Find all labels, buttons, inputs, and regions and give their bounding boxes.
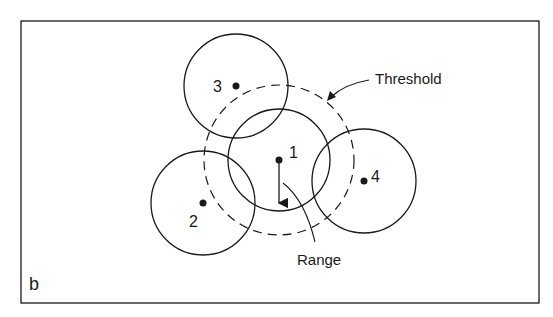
node-3-label: 3 [213, 78, 222, 95]
node-1-dot [276, 157, 283, 164]
node-3-dot [233, 83, 240, 90]
node-4-dot [361, 178, 368, 185]
threshold-arrowhead-icon [327, 91, 336, 101]
node-2-label: 2 [189, 213, 198, 230]
node-1-label: 1 [289, 144, 298, 161]
threshold-label: Threshold [375, 70, 442, 87]
range-label: Range [297, 251, 341, 268]
node-4-label: 4 [371, 168, 380, 185]
node-2-dot [200, 200, 207, 207]
threshold-pointer-arrow [331, 80, 369, 97]
range-pointer-line [283, 183, 315, 242]
diagram-canvas: 1 2 3 4 Threshold Range b [0, 0, 553, 317]
panel-label: b [29, 274, 39, 294]
